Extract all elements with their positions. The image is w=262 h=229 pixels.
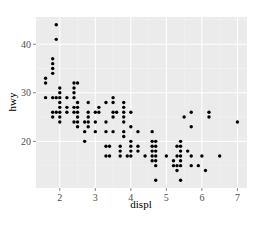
data-point (136, 149, 139, 152)
data-point (165, 154, 168, 157)
data-point (76, 120, 79, 123)
data-point (154, 154, 157, 157)
y-tick-label: 40 (21, 39, 31, 50)
x-tick-label: 3 (93, 192, 98, 203)
data-point (76, 81, 79, 84)
data-point (175, 145, 178, 148)
data-point (108, 154, 111, 157)
data-point (58, 96, 61, 99)
data-point (111, 96, 114, 99)
data-point (104, 130, 107, 133)
data-point (87, 120, 90, 123)
data-point (51, 115, 54, 118)
x-tick-label: 7 (235, 192, 240, 203)
data-point (122, 111, 125, 114)
data-point (72, 91, 75, 94)
data-point (182, 115, 185, 118)
data-point (104, 101, 107, 104)
data-point (129, 145, 132, 148)
data-point (72, 106, 75, 109)
data-point (179, 164, 182, 167)
data-point (118, 145, 121, 148)
data-point (154, 164, 157, 167)
data-point (236, 120, 239, 123)
data-point (129, 111, 132, 114)
data-point (207, 111, 210, 114)
data-point (190, 111, 193, 114)
data-point (122, 135, 125, 138)
data-point (111, 111, 114, 114)
data-point (150, 149, 153, 152)
data-point (190, 125, 193, 128)
data-point (51, 111, 54, 114)
data-point (126, 154, 129, 157)
data-point (104, 145, 107, 148)
data-point (44, 96, 47, 99)
data-point (87, 111, 90, 114)
data-point (136, 145, 139, 148)
data-point (51, 96, 54, 99)
data-point (58, 101, 61, 104)
data-point (154, 179, 157, 182)
x-tick-label: 6 (199, 192, 204, 203)
data-point (51, 57, 54, 60)
data-point (83, 130, 86, 133)
data-point (58, 111, 61, 114)
data-point (76, 125, 79, 128)
data-point (154, 159, 157, 162)
data-point (58, 91, 61, 94)
y-tick-label: 30 (21, 87, 31, 98)
data-point (51, 72, 54, 75)
data-point (154, 149, 157, 152)
data-point (72, 81, 75, 84)
data-point (179, 154, 182, 157)
data-point (115, 111, 118, 114)
data-point (150, 154, 153, 157)
data-point (94, 130, 97, 133)
data-point (150, 145, 153, 148)
data-point (58, 86, 61, 89)
data-point (94, 120, 97, 123)
data-point (55, 38, 58, 41)
data-point (179, 179, 182, 182)
data-point (179, 149, 182, 152)
data-point (122, 106, 125, 109)
data-point (218, 154, 221, 157)
y-axis-ticks: 203040 (21, 39, 36, 147)
x-tick-label: 2 (57, 192, 62, 203)
data-point (179, 159, 182, 162)
data-point (104, 154, 107, 157)
data-point (94, 111, 97, 114)
data-point (44, 77, 47, 80)
data-point (104, 120, 107, 123)
data-point (55, 111, 58, 114)
data-point (186, 149, 189, 152)
data-point (72, 86, 75, 89)
data-point (108, 145, 111, 148)
data-point (72, 111, 75, 114)
data-point (179, 140, 182, 143)
data-point (65, 106, 68, 109)
data-point (175, 169, 178, 172)
y-axis-title: hwy (6, 92, 18, 111)
data-point (87, 101, 90, 104)
data-point (83, 120, 86, 123)
data-point (154, 140, 157, 143)
data-point (129, 154, 132, 157)
data-point (122, 115, 125, 118)
x-tick-label: 5 (164, 192, 169, 203)
data-point (175, 164, 178, 167)
data-point (200, 154, 203, 157)
data-point (143, 154, 146, 157)
data-point (122, 120, 125, 123)
data-point (204, 169, 207, 172)
data-point (122, 130, 125, 133)
data-point (129, 125, 132, 128)
data-point (44, 81, 47, 84)
data-point (179, 145, 182, 148)
data-point (51, 62, 54, 65)
data-point (190, 154, 193, 157)
data-point (58, 120, 61, 123)
plot-panel (36, 17, 247, 188)
data-point (76, 106, 79, 109)
